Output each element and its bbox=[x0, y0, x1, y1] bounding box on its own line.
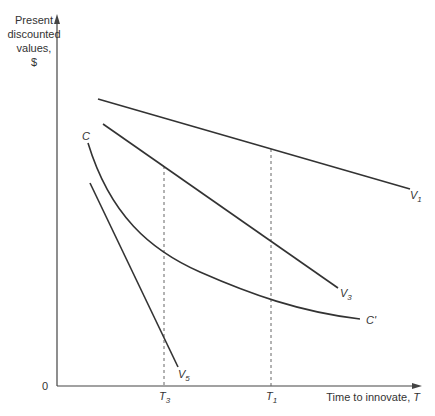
origin-label: 0 bbox=[42, 380, 48, 392]
y-axis-arrow-icon bbox=[54, 14, 60, 24]
y-axis-label-line1: Present bbox=[15, 14, 53, 26]
v3-label: V3 bbox=[340, 287, 352, 302]
cost-curve bbox=[88, 143, 360, 319]
v1-label: V1 bbox=[410, 189, 422, 204]
x-axis-label: Time to innovate, T bbox=[326, 391, 421, 403]
v5-line bbox=[90, 183, 178, 367]
v3-line bbox=[103, 124, 338, 288]
y-axis-label-line4: $ bbox=[31, 56, 37, 68]
v1-line bbox=[98, 99, 410, 189]
chart: Present discounted values, $ 0 C C' V1 V… bbox=[0, 0, 435, 416]
v5-label: V5 bbox=[178, 368, 190, 383]
c-start-label: C bbox=[82, 130, 90, 142]
x-axis-arrow-icon bbox=[412, 383, 422, 389]
y-axis-label-line2: discounted bbox=[7, 28, 60, 40]
t3-tick-label: T3 bbox=[159, 390, 171, 405]
y-axis-label-line3: values, bbox=[17, 42, 52, 54]
c-end-label: C' bbox=[366, 314, 377, 326]
t1-tick-label: T1 bbox=[266, 390, 277, 405]
